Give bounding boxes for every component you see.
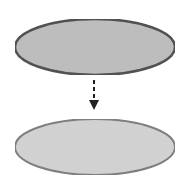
dashed-arrow bbox=[89, 80, 99, 110]
bottom-ellipse-node bbox=[15, 119, 175, 175]
diagram-svg bbox=[0, 0, 191, 188]
diagram-canvas bbox=[0, 0, 191, 188]
arrow-down-icon bbox=[89, 100, 99, 110]
top-ellipse-node bbox=[15, 19, 175, 75]
